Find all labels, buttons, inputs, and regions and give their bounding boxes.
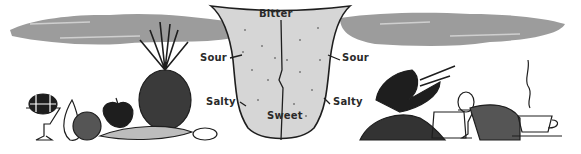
label-salty-left: Salty bbox=[206, 96, 236, 107]
right-foods bbox=[360, 60, 562, 140]
cloud-band-right bbox=[340, 13, 565, 46]
cloud-band-left bbox=[10, 14, 234, 45]
label-sour-right: Sour bbox=[342, 52, 369, 63]
label-sweet: Sweet bbox=[267, 110, 303, 121]
taste-map-illustration: Bitter Sour Sour Salty Salty Sweet bbox=[0, 0, 581, 154]
illustration-art bbox=[0, 0, 581, 154]
label-salty-right: Salty bbox=[333, 96, 363, 107]
label-bitter: Bitter bbox=[259, 8, 293, 19]
label-sour-left: Sour bbox=[200, 52, 227, 63]
